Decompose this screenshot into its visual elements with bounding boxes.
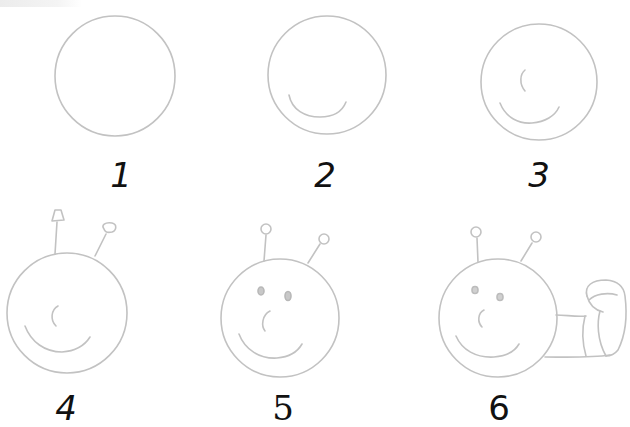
head-circle bbox=[55, 16, 175, 136]
right-antenna-stalk bbox=[308, 244, 320, 263]
step-2-drawing bbox=[268, 16, 386, 134]
step-5-label: 5 bbox=[272, 391, 294, 425]
drawing-canvas bbox=[0, 0, 630, 427]
step-2-label: 2 bbox=[314, 158, 336, 192]
body-segment-2 bbox=[598, 311, 606, 356]
mouth-arc bbox=[456, 336, 519, 357]
right-eye bbox=[285, 292, 291, 301]
step-1-label: 1 bbox=[110, 158, 132, 192]
step-6-drawing bbox=[439, 227, 626, 377]
nose-arc bbox=[479, 310, 484, 327]
tail-segment bbox=[586, 280, 626, 356]
mouth-arc bbox=[289, 95, 346, 117]
head-circle bbox=[7, 253, 127, 373]
step-3-drawing bbox=[481, 24, 597, 140]
mouth-arc bbox=[25, 326, 90, 352]
tail-fold bbox=[587, 296, 603, 312]
body-segment-1 bbox=[583, 316, 586, 356]
left-antenna-tip bbox=[471, 227, 481, 237]
right-antenna-tip bbox=[319, 234, 329, 244]
nose-arc bbox=[521, 70, 525, 91]
head-circle bbox=[439, 259, 557, 377]
mouth-arc bbox=[239, 334, 302, 358]
left-eye bbox=[472, 287, 478, 294]
right-antenna-stalk bbox=[521, 243, 532, 261]
left-eye bbox=[258, 287, 264, 295]
nose-arc bbox=[263, 311, 270, 331]
left-antenna-tip bbox=[52, 210, 64, 221]
step-3-label: 3 bbox=[528, 158, 550, 192]
nose-arc bbox=[52, 306, 58, 326]
mouth-arc bbox=[500, 103, 559, 123]
body-bottom-line bbox=[545, 355, 610, 357]
left-antenna-stalk bbox=[55, 222, 57, 254]
step-4-drawing bbox=[7, 210, 127, 373]
step-4-label: 4 bbox=[55, 391, 77, 425]
body-top-line bbox=[556, 315, 586, 316]
left-antenna-stalk bbox=[264, 235, 266, 261]
right-eye bbox=[497, 294, 503, 301]
step-5-drawing bbox=[221, 224, 339, 377]
step-6-label: 6 bbox=[488, 391, 510, 425]
head-circle bbox=[221, 259, 339, 377]
right-antenna-tip bbox=[531, 232, 541, 242]
step-1-drawing bbox=[55, 16, 175, 136]
tail-inner-curve bbox=[589, 294, 617, 300]
left-antenna-stalk bbox=[477, 238, 478, 262]
right-antenna-tip bbox=[103, 223, 116, 233]
right-antenna-stalk bbox=[95, 234, 106, 256]
left-antenna-tip bbox=[261, 224, 271, 234]
